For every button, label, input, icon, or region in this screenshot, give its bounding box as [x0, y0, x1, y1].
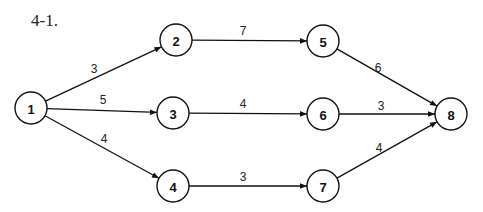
- node-label: 8: [447, 108, 454, 123]
- node-2: 2: [160, 24, 192, 56]
- node-label: 7: [319, 180, 326, 195]
- edge-7-8: 4: [337, 122, 437, 178]
- node-1: 1: [15, 92, 47, 124]
- edge-weight: 4: [101, 132, 108, 146]
- edge-weight: 4: [376, 141, 383, 155]
- node-4: 4: [157, 170, 189, 202]
- node-label: 4: [169, 180, 177, 195]
- edge-5-8: 6: [337, 49, 437, 106]
- edge-weight: 3: [240, 170, 247, 184]
- node-label: 3: [169, 107, 176, 122]
- edge-4-7: 3: [189, 170, 307, 186]
- edge-6-8: 3: [339, 99, 435, 114]
- edge-1-4: 4: [45, 116, 159, 179]
- edge-weight: 7: [240, 24, 247, 38]
- edge-weight: 5: [100, 93, 107, 107]
- node-label: 6: [319, 108, 326, 123]
- edge-weight: 3: [91, 62, 98, 76]
- arrow-icon: [189, 113, 307, 114]
- node-6: 6: [307, 98, 339, 130]
- node-5: 5: [307, 25, 339, 57]
- node-label: 1: [27, 102, 34, 117]
- node-3: 3: [157, 97, 189, 129]
- node-8: 8: [435, 98, 467, 130]
- arrow-icon: [192, 40, 307, 41]
- edge-weight: 4: [240, 97, 247, 111]
- edge-2-5: 7: [192, 24, 307, 41]
- edge-3-6: 4: [189, 97, 307, 114]
- node-7: 7: [307, 170, 339, 202]
- node-label: 2: [172, 34, 179, 49]
- arrow-icon: [337, 49, 437, 106]
- edge-weight: 3: [378, 99, 385, 113]
- arrow-icon: [45, 116, 159, 179]
- arrow-icon: [47, 109, 157, 113]
- node-label: 5: [319, 35, 326, 50]
- arrow-icon: [337, 122, 437, 178]
- network-diagram: 354743634 12345678: [0, 0, 483, 212]
- edge-1-3: 5: [47, 93, 157, 112]
- edge-weight: 6: [375, 61, 382, 75]
